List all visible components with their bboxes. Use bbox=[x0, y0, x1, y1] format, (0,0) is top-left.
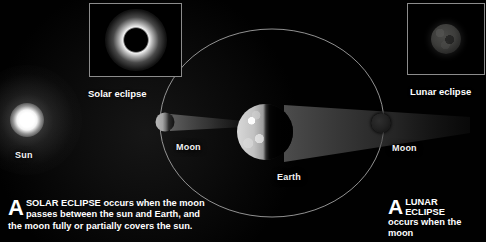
moon-lunar-label: Moon bbox=[392, 143, 417, 153]
sun-label: Sun bbox=[15, 150, 33, 160]
eclipse-diagram: Sun Moon Earth Moon Solar eclipse Lunar … bbox=[0, 0, 486, 242]
solar-eclipse-image bbox=[90, 4, 181, 76]
lunar-eclipse-image bbox=[408, 4, 484, 74]
lunar-line3: occurs when the moon bbox=[388, 217, 486, 240]
lunar-eclipse-caption: Lunar eclipse bbox=[410, 86, 471, 97]
lunar-eclipse-text-block: A LUNAR ECLIPSE occurs when the moon bbox=[388, 197, 486, 240]
moon-shadow-cone bbox=[170, 114, 244, 131]
earth-terminator bbox=[237, 104, 293, 160]
lunar-eclipse-photo bbox=[407, 3, 485, 75]
moon-solar-label: Moon bbox=[176, 142, 201, 152]
solar-line3: the moon fully or partially covers the s… bbox=[8, 221, 192, 231]
lunar-dropcap: A bbox=[388, 197, 405, 217]
eclipsed-moon-disk bbox=[431, 24, 461, 54]
solar-paragraph: SOLAR ECLIPSE occurs when the moon passe… bbox=[8, 198, 240, 232]
solar-eclipse-caption: Solar eclipse bbox=[88, 88, 147, 99]
sun-body bbox=[10, 103, 44, 137]
solar-line2: passes between the sun and Earth, and bbox=[26, 209, 200, 219]
solar-line1-rest: occurs when the moon bbox=[101, 198, 205, 208]
moon-lunar-body bbox=[372, 114, 391, 133]
earth-label: Earth bbox=[277, 172, 301, 182]
solar-keyword: SOLAR ECLIPSE bbox=[26, 198, 101, 208]
solar-dropcap: A bbox=[8, 198, 26, 217]
moon-solar-body bbox=[156, 113, 175, 132]
lunar-disk-silhouette bbox=[127, 32, 144, 49]
solar-eclipse-text-block: A SOLAR ECLIPSE occurs when the moon pas… bbox=[8, 198, 240, 232]
solar-eclipse-photo bbox=[89, 3, 182, 77]
